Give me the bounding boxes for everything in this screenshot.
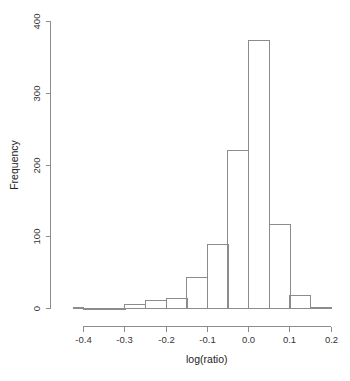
- x-axis-tick-label: 0.0: [242, 334, 255, 345]
- x-axis-tick-label: -0.4: [75, 334, 91, 345]
- y-axis-tick-label: 200: [31, 158, 42, 174]
- x-axis-tick-label: -0.3: [116, 334, 132, 345]
- histogram-bar: [270, 225, 291, 309]
- histogram-bar: [187, 278, 208, 309]
- histogram-bar: [249, 41, 270, 309]
- histogram-plot-panel: 0100200300400Frequency-0.4-0.3-0.2-0.10.…: [0, 0, 350, 381]
- histogram-chart: 0100200300400Frequency-0.4-0.3-0.2-0.10.…: [0, 0, 350, 381]
- y-axis-title: Frequency: [8, 139, 20, 189]
- histogram-bar: [228, 151, 249, 309]
- histogram-bar: [125, 305, 146, 309]
- x-axis-tick-label: 0.2: [325, 334, 338, 345]
- histogram-bars: [74, 41, 332, 310]
- histogram-bar: [167, 299, 188, 309]
- y-axis-tick-label: 400: [31, 14, 42, 30]
- y-axis: 0100200300400: [31, 14, 51, 312]
- x-axis-tick-label: 0.1: [283, 334, 296, 345]
- x-axis-title: log(ratio): [186, 353, 227, 365]
- y-axis-tick-label: 0: [31, 306, 42, 311]
- y-axis-tick-label: 100: [31, 229, 42, 245]
- histogram-bar: [290, 296, 311, 309]
- x-axis-tick-label: -0.2: [158, 334, 174, 345]
- histogram-bar: [208, 245, 229, 309]
- x-axis: -0.4-0.3-0.2-0.10.00.10.2: [75, 327, 338, 345]
- y-axis-tick-label: 300: [31, 86, 42, 102]
- histogram-bar: [146, 301, 167, 309]
- x-axis-tick-label: -0.1: [199, 334, 215, 345]
